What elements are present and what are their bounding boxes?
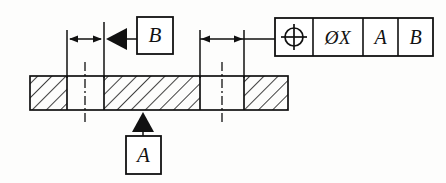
datum-b-triangle-icon bbox=[106, 28, 127, 50]
dimension-right bbox=[200, 36, 275, 43]
hatch-left bbox=[30, 76, 67, 110]
fcf-tolerance-value: ØX bbox=[313, 18, 363, 56]
dimension-left-arrow-end bbox=[93, 36, 102, 43]
datum-a-triangle-icon bbox=[132, 112, 154, 132]
fcf-primary-datum: A bbox=[363, 18, 398, 56]
dimension-right-arrow-start bbox=[201, 36, 210, 43]
hatch-right bbox=[244, 76, 288, 110]
datum-a-label: A bbox=[126, 136, 161, 174]
dimension-right-arrow-end bbox=[234, 36, 243, 43]
dimension-left bbox=[69, 36, 102, 43]
fcf-secondary-datum: B bbox=[398, 18, 433, 56]
datum-b-label: B bbox=[137, 17, 173, 54]
hatch-middle bbox=[104, 76, 200, 110]
drawing-canvas: B A ØX A B bbox=[0, 0, 446, 183]
dimension-left-arrow-start bbox=[69, 36, 78, 43]
part-section bbox=[30, 76, 288, 110]
